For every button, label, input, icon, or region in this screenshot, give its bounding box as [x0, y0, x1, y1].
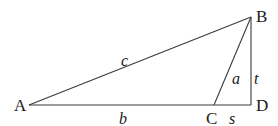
vertex-label-d: D [256, 96, 268, 115]
side-label-a: a [232, 70, 240, 87]
vertex-label-a: A [14, 96, 27, 115]
vertex-label-b: B [256, 7, 267, 26]
side-label-t: t [254, 70, 259, 87]
edge-cb [214, 17, 251, 105]
side-label-s: s [229, 110, 235, 126]
vertex-label-c: C [206, 109, 217, 126]
triangle-diagram: A B C D c b a t s [0, 0, 278, 126]
side-label-b: b [119, 110, 127, 126]
side-label-c: c [121, 52, 128, 69]
edge-ab [29, 17, 251, 105]
